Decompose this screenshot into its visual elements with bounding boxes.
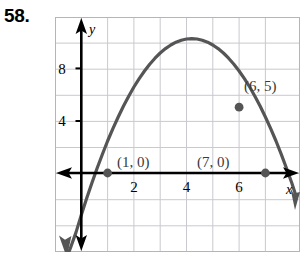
figure-container: 58. [0, 0, 306, 269]
x-tick-label-6: 6 [235, 179, 243, 195]
point-7-0 [261, 169, 270, 178]
point-label-1-0: (1, 0) [117, 154, 150, 171]
point-6-5 [235, 103, 244, 112]
y-tick-label-4: 4 [58, 113, 66, 129]
grid-background [55, 17, 300, 252]
point-label-6-5: (6, 5) [244, 78, 277, 95]
problem-number: 58. [4, 5, 30, 27]
coordinate-plane-graph: y x 8 4 2 4 6 (1, 0) (7, 0) (6, 5) [55, 17, 300, 252]
graph-panel: y x 8 4 2 4 6 (1, 0) (7, 0) (6, 5) [55, 17, 300, 252]
x-axis-label: x [285, 182, 293, 197]
x-tick-label-2: 2 [130, 179, 138, 195]
y-axis-label: y [87, 22, 96, 37]
point-label-7-0: (7, 0) [197, 154, 230, 171]
x-tick-label-4: 4 [183, 179, 191, 195]
point-1-0 [103, 169, 112, 178]
y-tick-label-8: 8 [58, 61, 66, 77]
